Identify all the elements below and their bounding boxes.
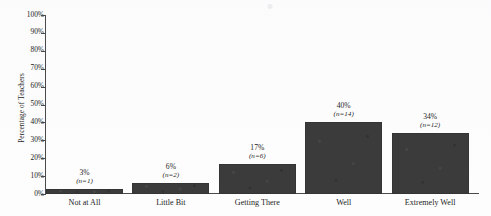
bar: [132, 183, 209, 194]
y-axis-title: Percentage of Teachers: [18, 33, 26, 183]
x-axis-category-label: Extremely Well: [378, 198, 482, 207]
y-axis-tick-label: 60%: [30, 81, 44, 90]
bar-chart: Percentage of Teachers 100%90%80%70%60%5…: [0, 0, 491, 216]
bar: [46, 189, 123, 194]
bar-group: 3%(n=1): [46, 15, 123, 194]
bar: [219, 164, 296, 194]
bar-count-label: (n=6): [219, 152, 296, 161]
y-axis-tick-label: 30%: [30, 135, 44, 144]
y-axis-tick-mark: [41, 194, 46, 195]
bar-value-label: 34%: [392, 112, 469, 121]
y-axis-tick-label: 90%: [30, 27, 44, 36]
bar-count-label: (n=12): [392, 121, 469, 130]
y-axis-tick-label: 20%: [30, 153, 44, 162]
plot-area: 3%(n=1)6%(n=2)17%(n=6)40%(n=14)34%(n=12): [46, 15, 478, 194]
y-axis-tick-label: 10%: [30, 171, 44, 180]
bar-count-label: (n=1): [46, 177, 123, 186]
bar: [392, 133, 469, 194]
bar-count-label: (n=2): [132, 171, 209, 180]
y-axis-tick-label: 70%: [30, 63, 44, 72]
y-axis-tick-label: 100%: [27, 10, 44, 19]
bar-value-label: 3%: [46, 168, 123, 177]
y-axis-tick-label: 50%: [30, 99, 44, 108]
bar-group: 40%(n=14): [305, 15, 382, 194]
bar-group: 17%(n=6): [219, 15, 296, 194]
y-axis-tick-label: 40%: [30, 117, 44, 126]
y-axis-tick-label: 80%: [30, 45, 44, 54]
bar-value-label: 40%: [305, 101, 382, 110]
bar-value-label: 17%: [219, 143, 296, 152]
bar-group: 6%(n=2): [132, 15, 209, 194]
y-axis-tick-label: 0%: [34, 189, 44, 198]
bar-count-label: (n=14): [305, 110, 382, 119]
bar-value-label: 6%: [132, 162, 209, 171]
bar-group: 34%(n=12): [392, 15, 469, 194]
bar: [305, 122, 382, 194]
